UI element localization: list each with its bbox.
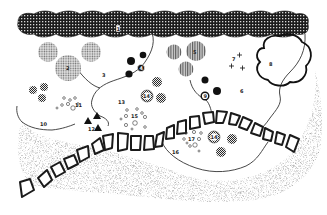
- garden-plan: 1 2 3 4 5 9 7 6 8: [0, 0, 327, 215]
- plant-8-tree: 8: [257, 34, 311, 86]
- plant-group-9: 9: [201, 77, 221, 100]
- plant-label-2: 2: [66, 65, 70, 71]
- hedge-label: 1: [117, 26, 121, 32]
- plant-group-5: 5: [167, 41, 207, 77]
- plant-label-11: 11: [75, 102, 82, 108]
- plant-label-14b: 14: [211, 134, 218, 140]
- plant-group-14-lower: 14: [208, 131, 237, 157]
- bed-label-6: 6: [240, 88, 244, 94]
- bed-label-10: 10: [40, 121, 47, 127]
- plant-label-4: 4: [140, 65, 144, 71]
- plant-label-8: 8: [269, 61, 273, 67]
- plant-label-15: 15: [131, 113, 138, 119]
- plant-label-14a: 14: [143, 93, 150, 99]
- plant-group-7: 7: [229, 53, 245, 71]
- plant-label-12: 12: [88, 126, 95, 132]
- plant-label-9: 9: [204, 93, 208, 99]
- plant-group-15: 15: [120, 108, 147, 130]
- plant-label-17: 17: [188, 136, 195, 142]
- hedge: 1: [18, 11, 309, 37]
- bed-label-13: 13: [118, 99, 125, 105]
- bed-label-3: 3: [102, 72, 106, 78]
- plant-label-5: 5: [193, 49, 197, 55]
- plant-label-7: 7: [232, 56, 236, 62]
- plant-group-14-upper: 14: [141, 77, 166, 103]
- bed-label-16: 16: [172, 149, 179, 155]
- plant-group-11: 11: [29, 83, 82, 110]
- plant-group-2: 2: [38, 42, 101, 81]
